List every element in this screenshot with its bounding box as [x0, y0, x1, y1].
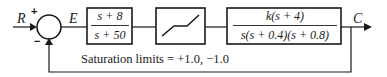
input-arrow-icon: [30, 23, 37, 31]
plant-numerator: k(s + 4): [233, 9, 337, 23]
saturation-curve-icon: [162, 15, 199, 36]
plant-transfer-function: k(s + 4) s(s + 0.4)(s + 0.8): [233, 9, 337, 42]
plus-sign: +: [31, 5, 37, 17]
minus-sign: −: [34, 35, 40, 47]
output-label: C: [353, 11, 362, 27]
fraction-bar: [233, 25, 337, 26]
input-label: R: [17, 11, 26, 27]
fraction-bar: [91, 25, 129, 26]
plant-denominator: s(s + 0.4)(s + 0.8): [233, 28, 337, 42]
compensator-transfer-function: s + 8 s + 50: [91, 9, 129, 42]
saturation-limits-annotation: Saturation limits = +1.0, −1.0: [81, 52, 229, 67]
error-label: E: [69, 11, 78, 27]
compensator-numerator: s + 8: [91, 9, 129, 23]
compensator-denominator: s + 50: [91, 28, 129, 42]
output-arrow-icon: [364, 23, 372, 31]
summing-junction: [37, 15, 61, 39]
block-diagram: R + − E s + 8 s + 50 k(s + 4) s(s + 0.4)…: [0, 0, 387, 77]
